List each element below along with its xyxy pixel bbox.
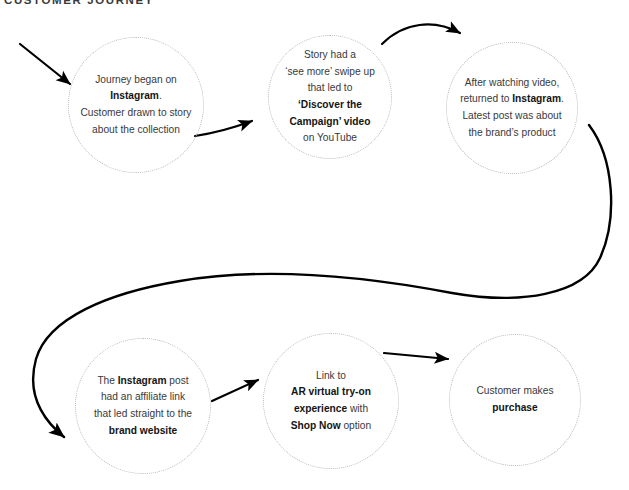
customer-journey-diagram: CUSTOMER JOURNEY Journey began onInstagr… xyxy=(0,0,629,490)
node-journey-began-instagram[interactable]: Journey began onInstagram.Customer drawn… xyxy=(68,37,204,173)
arrow-node1-to-node2 xyxy=(195,121,252,136)
node-returned-to-instagram[interactable]: After watching video,returned to Instagr… xyxy=(446,42,578,174)
node-label: Story had a‘see more’ swipe upthat led t… xyxy=(278,47,383,146)
page-title: CUSTOMER JOURNEY xyxy=(4,0,154,6)
node-label: After watching video,returned to Instagr… xyxy=(456,75,568,141)
node-story-see-more-swipe-up[interactable]: Story had a‘see more’ swipe upthat led t… xyxy=(268,35,392,159)
arrow-node4-to-node5 xyxy=(212,380,258,401)
node-label: Customer makespurchase xyxy=(459,383,571,416)
arrow-node2-to-node3 xyxy=(382,24,460,44)
node-label: The Instagram posthad an affiliate linkt… xyxy=(85,373,200,439)
node-customer-makes-purchase[interactable]: Customer makespurchase xyxy=(449,334,581,466)
arrow-node5-to-node6 xyxy=(384,353,448,359)
node-instagram-post-affiliate-link[interactable]: The Instagram posthad an affiliate linkt… xyxy=(75,338,211,474)
node-ar-virtual-tryon-shop-now[interactable]: Link toAR virtual try-onexperience withS… xyxy=(263,333,399,469)
node-label: Link toAR virtual try-onexperience withS… xyxy=(273,368,388,434)
node-label: Journey began onInstagram.Customer drawn… xyxy=(78,72,193,138)
entry-arrow xyxy=(20,44,70,84)
